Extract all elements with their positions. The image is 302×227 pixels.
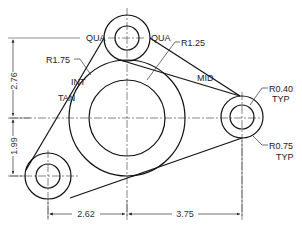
- label-mid: MID: [197, 73, 214, 83]
- label-qua-left: QUA: [86, 33, 106, 43]
- label-r0-40: R0.40: [269, 84, 293, 94]
- circles: [25, 15, 263, 199]
- center-lines: [10, 8, 262, 218]
- dim-2-76: 2.76: [9, 72, 19, 90]
- extension-lines: [8, 38, 242, 220]
- label-r1-75: R1.75: [46, 55, 70, 65]
- dim-3-75: 3.75: [176, 209, 194, 219]
- mid-tangent-line: [120, 60, 240, 96]
- label-r0-75-typ: TYP: [276, 152, 294, 162]
- label-int: INT: [71, 77, 86, 87]
- dim-2-62: 2.62: [77, 209, 95, 219]
- dim-1-99: 1.99: [9, 137, 19, 155]
- label-qua-right: QUA: [151, 33, 171, 43]
- drawing-canvas: 2.76 1.99 2.62 3.75 QUA QUA R1.75 R1.25 …: [0, 0, 302, 227]
- leader-lines: [74, 42, 268, 145]
- label-r0-75: R0.75: [269, 141, 293, 151]
- label-r0-40-typ: TYP: [272, 94, 290, 104]
- link-drawing: 2.76 1.99 2.62 3.75 QUA QUA R1.75 R1.25 …: [0, 0, 302, 227]
- label-r1-25: R1.25: [181, 38, 205, 48]
- label-tan: TAN: [58, 93, 75, 103]
